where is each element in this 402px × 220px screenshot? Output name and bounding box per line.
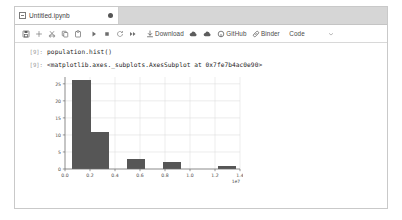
y-tick-label: 15 (55, 116, 61, 121)
histogram-bar (91, 132, 109, 169)
save-button[interactable] (19, 27, 32, 41)
binder-label: Binder (261, 30, 280, 37)
notebook-body: [9]: population.hist() [9]: <matplotlib.… (15, 43, 387, 209)
y-tick-label: 0 (58, 167, 61, 172)
histogram-bar (127, 159, 145, 169)
x-tick-label: 1.2 (211, 173, 218, 178)
x-tick-label: 0.4 (111, 173, 118, 178)
x-tick-label: 1.0 (186, 173, 193, 178)
x-tick-label: 1.4 (236, 173, 243, 178)
histogram-bar (218, 166, 236, 169)
save-to-drive-button[interactable] (200, 27, 214, 41)
notebook-icon (19, 12, 26, 19)
tab-dirty-indicator[interactable] (108, 13, 113, 18)
download-button[interactable]: Download (143, 27, 186, 41)
restart-run-all-button[interactable] (126, 27, 140, 41)
y-tick-label: 10 (55, 133, 61, 138)
code-cell-output-text: [9]: <matplotlib.axes._subplots.AxesSubp… (15, 55, 387, 68)
tab-bar: Untitled.ipynb (15, 7, 387, 25)
restart-button[interactable] (113, 27, 126, 41)
x-tick-label: 0.0 (61, 173, 68, 178)
paste-button[interactable] (71, 27, 84, 41)
histogram-figure: 0.00.20.40.60.81.01.21.40510152025 1e7 (43, 71, 243, 189)
run-button[interactable] (87, 27, 100, 41)
code-cell-output-figure: 0.00.20.40.60.81.01.21.40510152025 1e7 (15, 68, 387, 189)
cell-type-value[interactable]: Code (285, 30, 308, 37)
chevron-down-icon[interactable] (325, 27, 338, 41)
y-tick-label: 5 (58, 150, 61, 155)
histogram-bar (163, 162, 181, 169)
x-tick-label: 0.6 (136, 173, 143, 178)
input-prompt: [9]: (21, 48, 47, 55)
copy-to-drive-button[interactable] (186, 27, 200, 41)
binder-button[interactable]: Binder (249, 27, 282, 41)
screenshot-root: { "window": { "tab": { "title": "Untitle… (0, 0, 402, 220)
notebook-toolbar: Download GitHub (15, 25, 387, 43)
x-axis-offset-label: 1e7 (232, 179, 240, 184)
copy-button[interactable] (58, 27, 71, 41)
stop-button[interactable] (100, 27, 113, 41)
x-tick-label: 0.2 (86, 173, 93, 178)
output-repr-text: <matplotlib.axes._subplots.AxesSubplot a… (47, 61, 262, 68)
tab-title: Untitled.ipynb (29, 12, 70, 19)
notebook-window: Untitled.ipynb (14, 6, 388, 209)
code-cell-input[interactable]: [9]: population.hist() (15, 43, 387, 55)
histogram-bar (72, 80, 91, 169)
github-button[interactable]: GitHub (214, 27, 249, 41)
y-tick-label: 20 (55, 99, 61, 104)
x-tick-label: 0.8 (161, 173, 168, 178)
github-label: GitHub (226, 30, 246, 37)
download-label: Download (155, 30, 184, 37)
cut-button[interactable] (45, 27, 58, 41)
tab-untitled-ipynb[interactable]: Untitled.ipynb (15, 7, 119, 24)
output-prompt: [9]: (21, 61, 47, 68)
y-tick-label: 25 (55, 82, 61, 87)
insert-button[interactable] (32, 27, 45, 41)
cell-source[interactable]: population.hist() (47, 48, 112, 55)
